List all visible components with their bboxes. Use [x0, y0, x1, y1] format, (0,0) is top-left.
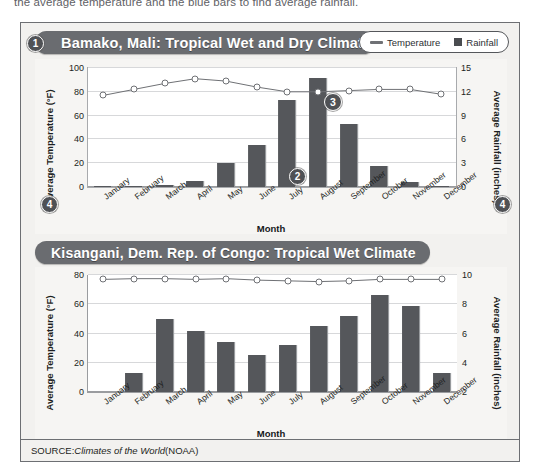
source-prefix: SOURCE:	[31, 445, 74, 456]
source-note: SOURCE: Climates of the World (NOAA)	[21, 439, 519, 461]
temperature-point-marker	[315, 88, 322, 95]
legend: Temperature Rainfall	[359, 31, 509, 53]
source-suffix: (NOAA)	[165, 445, 198, 456]
temperature-point-marker	[192, 276, 199, 283]
y-tick-label: 60	[74, 111, 84, 121]
chart2-x-axis-title: Month	[35, 428, 507, 439]
temperature-point-marker	[376, 86, 383, 93]
legend-item-rainfall: Rainfall	[454, 37, 498, 48]
temperature-point-marker	[161, 275, 168, 282]
y-tick-label: 80	[74, 270, 84, 280]
y2-tick-label: 6	[462, 329, 467, 339]
square-icon	[454, 38, 462, 46]
chart-kisangani: Average Temperature (°F) Average Rainfal…	[35, 267, 507, 439]
y2-tick-label: 4	[462, 358, 467, 368]
temperature-line-series	[88, 68, 456, 187]
callout-marker-1: 1	[27, 35, 44, 52]
callout-marker-4-left: 4	[41, 196, 58, 213]
temperature-point-marker	[284, 277, 291, 284]
chart2-title: Kisangani, Dem. Rep. of Congo: Tropical …	[35, 245, 434, 261]
temperature-point-marker	[254, 277, 261, 284]
chart1-plot-area: 02040608010003691215	[87, 67, 457, 188]
y2-tick-label: 15	[461, 63, 471, 73]
line-icon	[370, 41, 383, 44]
temperature-polyline	[103, 279, 441, 282]
y-tick-label: 40	[74, 134, 84, 144]
chart2-plot-area: 020406080246810	[87, 275, 457, 393]
chart1-title-banner: Bamako, Mali: Tropical Wet and Dry Clima…	[35, 31, 375, 54]
y2-tick-label: 9	[461, 111, 466, 121]
legend-item-temperature: Temperature	[370, 37, 440, 48]
temperature-polyline	[103, 79, 440, 96]
y2-tick-label: 8	[462, 299, 467, 309]
y-tick-label: 20	[74, 158, 84, 168]
temperature-point-marker	[377, 276, 384, 283]
temperature-point-marker	[161, 80, 168, 87]
chart1-y-axis-label: Average Temperature (°F)	[44, 87, 55, 207]
temperature-point-marker	[284, 88, 291, 95]
chart-bamako: Average Temperature (°F) Average Rainfal…	[35, 59, 507, 234]
temperature-point-marker	[407, 276, 414, 283]
instruction-text: the average temperature and the blue bar…	[14, 0, 444, 10]
y-tick-label: 60	[74, 299, 84, 309]
y-tick-label: 40	[74, 329, 84, 339]
temperature-point-marker	[223, 275, 230, 282]
temperature-point-marker	[437, 91, 444, 98]
y2-tick-label: 10	[462, 270, 472, 280]
temperature-point-marker	[223, 78, 230, 85]
y2-tick-label: 3	[461, 158, 466, 168]
chart2-y-axis-label: Average Temperature (°F)	[44, 293, 55, 413]
chart1-x-axis-title: Month	[35, 223, 507, 234]
source-title: Climates of the World	[74, 445, 165, 456]
chart2-y2-axis-label: Average Rainfall (inches)	[492, 293, 503, 413]
legend-label-rainfall: Rainfall	[466, 37, 498, 48]
temperature-point-marker	[315, 278, 322, 285]
temperature-point-marker	[100, 276, 107, 283]
chart1-y2-axis-label: Average Rainfall (inches)	[492, 87, 503, 207]
y-tick-label: 0	[79, 182, 84, 192]
temperature-point-marker	[345, 87, 352, 94]
temperature-point-marker	[438, 276, 445, 283]
y-tick-label: 0	[79, 387, 84, 397]
y-tick-label: 20	[74, 358, 84, 368]
y-tick-label: 80	[74, 87, 84, 97]
temperature-point-marker	[192, 75, 199, 82]
y2-tick-label: 6	[461, 134, 466, 144]
temperature-line-series	[88, 275, 457, 392]
callout-marker-2: 2	[289, 168, 306, 185]
climate-figure: Bamako, Mali: Tropical Wet and Dry Clima…	[20, 22, 520, 462]
temperature-point-marker	[131, 275, 138, 282]
callout-marker-3: 3	[324, 93, 342, 111]
temperature-point-marker	[346, 277, 353, 284]
callout-marker-4-right: 4	[494, 196, 511, 213]
chart1-title: Bamako, Mali: Tropical Wet and Dry Clima…	[35, 35, 389, 51]
y2-tick-label: 12	[461, 87, 471, 97]
y-tick-label: 100	[69, 63, 84, 73]
temperature-point-marker	[131, 86, 138, 93]
temperature-point-marker	[407, 86, 414, 93]
temperature-point-marker	[100, 92, 107, 99]
temperature-point-marker	[253, 84, 260, 91]
legend-label-temperature: Temperature	[387, 37, 440, 48]
chart2-title-banner: Kisangani, Dem. Rep. of Congo: Tropical …	[35, 241, 430, 264]
